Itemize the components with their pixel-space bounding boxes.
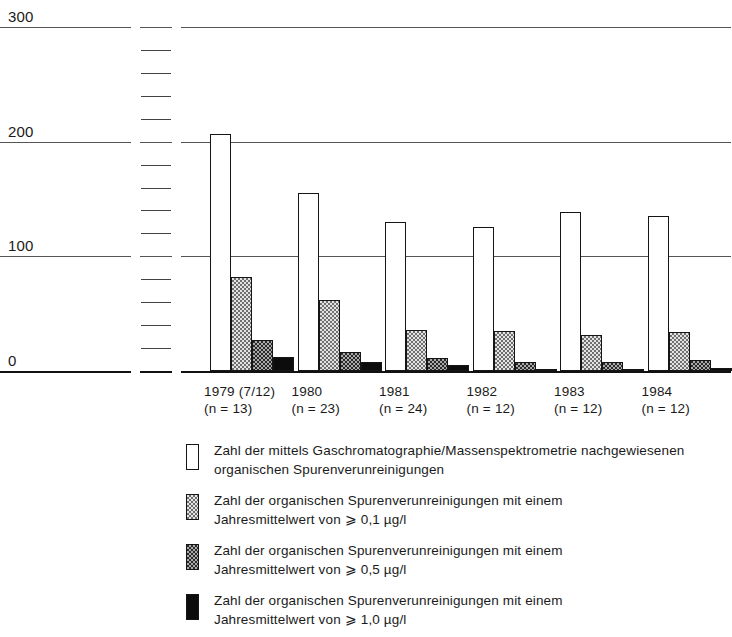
bar [385,222,406,371]
x-axis-tick: 1981(n = 24) [379,384,428,417]
x-axis-year-label: 1984 [642,384,691,401]
bar [623,369,644,371]
x-axis-sample-count: (n = 23) [292,401,341,418]
legend-label: Zahl der organischen Spurenverunreinigun… [214,491,731,529]
y-axis-minor-tick [141,119,171,120]
bar [602,362,623,371]
x-axis-sample-count: (n = 13) [204,401,275,418]
y-axis-minor-tick [141,188,171,189]
y-axis-tick-label: 100 [8,237,34,254]
bar [473,227,494,371]
legend-entry: Zahl der organischen Spurenverunreinigun… [186,591,731,631]
bar [536,369,557,371]
bar [427,358,448,371]
y-axis-minor-tick [141,233,171,234]
bar [252,340,273,371]
bar [494,331,515,371]
legend-swatch-dark-checker [186,544,199,570]
x-axis-sample-count: (n = 24) [379,401,428,418]
bar-group [473,0,557,380]
x-axis-baseline [0,371,131,373]
legend-entry: Zahl der mittels Gaschromatographie/Mass… [186,441,731,491]
x-axis-sample-count: (n = 12) [642,401,691,418]
legend-label-line2: Jahresmittelwert von ⩾ 0,1 µg/l [214,510,731,529]
bar-group [648,0,732,380]
y-axis-minor-tick [141,348,171,349]
legend-label-line1: Zahl der organischen Spurenverunreinigun… [214,543,563,558]
bar [690,360,711,371]
bar [406,330,427,371]
y-axis-minor-tick [141,210,171,211]
legend-label: Zahl der organischen Spurenverunreinigun… [214,591,731,629]
y-axis-tick-label: 300 [8,8,34,25]
legend-swatch-light-checker [186,494,199,520]
chart-plot-area: 3002001000 [0,0,731,380]
x-axis-year-label: 1980 [292,384,341,401]
x-axis-tick: 1984(n = 12) [642,384,691,417]
bar [669,332,690,371]
bar [581,335,602,371]
bar [210,134,231,371]
legend-label-line1: Zahl der organischen Spurenverunreinigun… [214,493,563,508]
legend-swatch-white [186,444,199,470]
bar-group [385,0,469,380]
chart-legend: Zahl der mittels Gaschromatographie/Mass… [186,441,731,631]
x-axis-year-label: 1982 [467,384,516,401]
legend-label-line2: organischen Spurenverunreinigungen [214,460,731,479]
gridline-100 [140,256,172,257]
legend-label-line2: Jahresmittelwert von ⩾ 0,5 µg/l [214,560,731,579]
x-axis-tick: 1979 (7/12)(n = 13) [204,384,275,417]
x-axis-labels: 1979 (7/12)(n = 13)1980(n = 23)1981(n = … [0,384,731,426]
legend-label-line1: Zahl der mittels Gaschromatographie/Mass… [214,443,684,458]
bar [361,362,382,371]
bar [711,368,732,371]
y-axis-tick-label: 200 [8,123,34,140]
gridline-100 [0,256,131,257]
x-axis-baseline [140,371,172,373]
bar [448,365,469,371]
bar-group [298,0,382,380]
y-axis-minor-tick [141,302,171,303]
legend-label: Zahl der organischen Spurenverunreinigun… [214,541,731,579]
gridline-200 [140,142,172,143]
legend-label: Zahl der mittels Gaschromatographie/Mass… [214,441,731,479]
y-axis-minor-tick [141,96,171,97]
bar [340,352,361,371]
x-axis-tick: 1982(n = 12) [467,384,516,417]
bar [273,357,294,371]
x-axis-year-label: 1979 (7/12) [204,384,275,401]
bar [231,277,252,371]
x-axis-tick: 1980(n = 23) [292,384,341,417]
x-axis-year-label: 1983 [554,384,603,401]
y-axis-minor-tick [141,325,171,326]
legend-entry: Zahl der organischen Spurenverunreinigun… [186,491,731,541]
x-axis-year-label: 1981 [379,384,428,401]
bar [319,300,340,371]
x-axis-sample-count: (n = 12) [554,401,603,418]
legend-label-line1: Zahl der organischen Spurenverunreinigun… [214,593,563,608]
y-axis-minor-tick [141,165,171,166]
y-axis-minor-tick [141,73,171,74]
gridline-300 [140,27,172,28]
bar-group [210,0,294,380]
x-axis-sample-count: (n = 12) [467,401,516,418]
legend-swatch-solid-black [186,594,199,620]
gridline-300 [0,27,131,28]
bar [648,216,669,371]
x-axis-tick: 1983(n = 12) [554,384,603,417]
gridline-200 [0,142,131,143]
y-axis-tick-label: 0 [8,352,17,369]
legend-entry: Zahl der organischen Spurenverunreinigun… [186,541,731,591]
bar [560,212,581,371]
bar [515,362,536,371]
legend-label-line2: Jahresmittelwert von ⩾ 1,0 µg/l [214,610,731,629]
y-axis-minor-tick [141,279,171,280]
bar-group [560,0,644,380]
bar [298,193,319,371]
y-axis-minor-tick [141,50,171,51]
